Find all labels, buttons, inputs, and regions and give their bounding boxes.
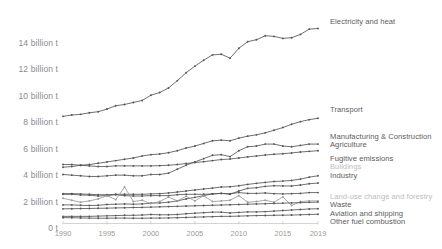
series-point	[106, 195, 108, 197]
series-point	[176, 194, 178, 196]
series-point	[256, 155, 258, 157]
series-point	[229, 186, 231, 188]
series-point	[291, 123, 293, 125]
series-point	[88, 207, 90, 209]
series-point	[176, 164, 178, 166]
series-point	[256, 145, 258, 147]
series-point	[212, 204, 214, 206]
series-point	[317, 201, 319, 203]
series-point	[194, 216, 196, 218]
series-point	[62, 164, 64, 166]
series-point	[97, 217, 99, 219]
series-point	[62, 115, 64, 117]
series-point	[203, 188, 205, 190]
series-point	[282, 210, 284, 212]
series-point	[62, 197, 64, 199]
series-point	[308, 192, 310, 194]
series-point	[299, 209, 301, 211]
series-point	[97, 176, 99, 178]
series-point	[80, 208, 82, 210]
series-line-transport	[62, 117, 319, 168]
series-point	[71, 164, 73, 166]
series-point	[124, 207, 126, 209]
series-point	[264, 199, 266, 201]
series-point	[317, 192, 319, 194]
series-point	[132, 203, 134, 205]
series-point	[150, 214, 152, 216]
series-point	[88, 194, 90, 196]
series-point	[291, 202, 293, 204]
series-point	[132, 201, 134, 203]
series-point	[273, 193, 275, 195]
series-point	[168, 192, 170, 194]
series-point	[159, 193, 161, 195]
series-point	[203, 59, 205, 61]
series-point	[220, 159, 222, 161]
series-point	[106, 217, 108, 219]
series-point	[97, 204, 99, 206]
series-point	[220, 139, 222, 141]
series-point	[106, 175, 108, 177]
series-point	[299, 214, 301, 216]
series-point	[291, 152, 293, 154]
series-point	[256, 187, 258, 189]
series-point	[282, 193, 284, 195]
series-point	[264, 35, 266, 37]
series-point	[299, 121, 301, 123]
series-point	[264, 132, 266, 134]
series-point	[80, 113, 82, 115]
series-point	[132, 193, 134, 195]
series-point	[238, 150, 240, 152]
series-point	[141, 214, 143, 216]
series-point	[194, 189, 196, 191]
series-point	[291, 37, 293, 39]
series-point	[115, 215, 117, 217]
series-path	[63, 28, 318, 116]
series-point	[71, 208, 73, 210]
series-point	[132, 165, 134, 167]
series-point	[299, 184, 301, 186]
series-point	[264, 203, 266, 205]
series-point	[168, 87, 170, 89]
series-point	[71, 174, 73, 176]
series-line-aviation-and-shipping	[62, 208, 319, 218]
series-point	[150, 206, 152, 208]
series-point	[141, 203, 143, 205]
series-point	[229, 57, 231, 59]
series-point	[273, 185, 275, 187]
series-point	[62, 217, 64, 219]
series-point	[150, 94, 152, 96]
series-point	[247, 41, 249, 43]
series-point	[176, 205, 178, 207]
series-point	[220, 154, 222, 156]
series-point	[264, 192, 266, 194]
series-point	[97, 215, 99, 217]
series-point	[115, 105, 117, 107]
series-point	[229, 156, 231, 158]
series-point	[247, 156, 249, 158]
series-point	[203, 142, 205, 144]
series-point	[62, 208, 64, 210]
series-point	[132, 195, 134, 197]
series-point	[238, 137, 240, 139]
series-point	[291, 205, 293, 207]
series-point	[124, 104, 126, 106]
series-point	[159, 174, 161, 176]
series-point	[238, 185, 240, 187]
series-point	[282, 153, 284, 155]
series-point	[229, 158, 231, 160]
series-label-industry: Industry	[330, 172, 357, 180]
series-point	[264, 185, 266, 187]
series-point	[88, 205, 90, 207]
series-point	[299, 151, 301, 153]
series-point	[238, 157, 240, 159]
series-point	[150, 217, 152, 219]
series-point	[88, 112, 90, 114]
series-point	[115, 160, 117, 162]
series-point	[168, 196, 170, 198]
series-point	[141, 195, 143, 197]
series-point	[176, 150, 178, 152]
series-point	[212, 201, 214, 203]
series-point	[176, 168, 178, 170]
series-line-electricity-and-heat	[62, 28, 319, 118]
